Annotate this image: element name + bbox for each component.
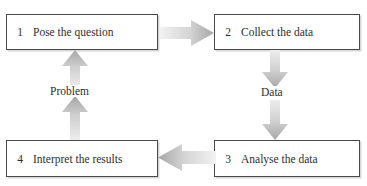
arrow-step4-to-step1-lower-icon — [62, 96, 88, 140]
step-label: Pose the question — [33, 26, 157, 38]
process-step-4-box[interactable]: 4 Interpret the results — [6, 140, 158, 177]
process-step-1-box[interactable]: 1 Pose the question — [6, 14, 158, 50]
process-step-3-box[interactable]: 3 Analyse the data — [214, 140, 360, 177]
step-number: 2 — [215, 26, 241, 38]
step-label: Interpret the results — [33, 153, 157, 165]
step-label: Collect the data — [241, 26, 359, 38]
arrow-step2-to-step3-upper-icon — [262, 50, 288, 88]
arrow-step4-to-step1-upper-icon — [62, 50, 88, 88]
arrow-step1-to-step2-icon — [160, 20, 214, 46]
step-number: 3 — [215, 153, 241, 165]
step-label: Analyse the data — [241, 153, 359, 165]
arrow-step3-to-step4-icon — [158, 144, 216, 171]
step-number: 1 — [7, 26, 33, 38]
step-number: 4 — [7, 153, 33, 165]
arrow-step2-to-step3-lower-icon — [262, 100, 288, 140]
flow-label-data: Data — [258, 86, 286, 98]
flow-label-problem: Problem — [47, 85, 92, 97]
process-step-2-box[interactable]: 2 Collect the data — [214, 14, 360, 50]
top-cutoff-text — [0, 0, 367, 6]
diagram-canvas: 1 Pose the question 2 Collect the data 3… — [0, 0, 367, 186]
